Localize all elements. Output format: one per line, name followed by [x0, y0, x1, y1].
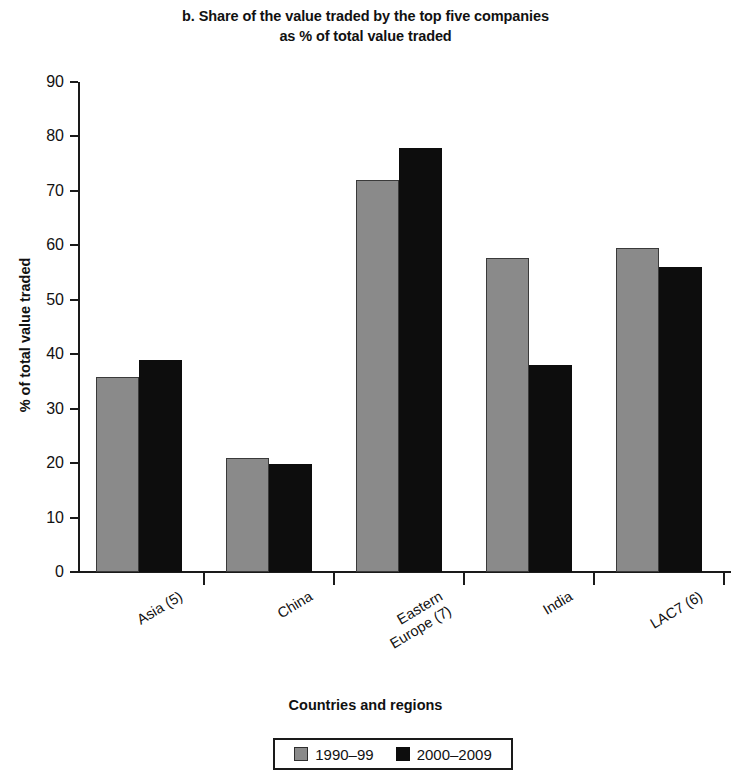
chart-title-line-1: b. Share of the value traded by the top … — [182, 8, 549, 24]
x-axis-category-label: LAC7 (6) — [560, 588, 706, 685]
bar-series-1 — [616, 248, 659, 572]
bar-series-2 — [399, 148, 442, 572]
y-axis-tick — [70, 517, 78, 519]
legend-label-series-1: 1990–99 — [315, 747, 373, 762]
x-axis-tick — [333, 572, 335, 585]
y-axis-tick-label: 30 — [4, 401, 64, 417]
x-axis-tick — [593, 572, 595, 585]
bar-series-2 — [659, 267, 702, 572]
x-axis-title: Countries and regions — [0, 697, 731, 713]
bar-series-1 — [486, 258, 529, 572]
bar-series-2 — [269, 464, 312, 572]
y-axis-tick-label: 80 — [4, 128, 64, 144]
y-axis-tick-label: 90 — [4, 74, 64, 90]
chart-title-line-2: as % of total value traded — [0, 26, 731, 46]
y-axis-tick — [70, 81, 78, 83]
bar-series-2 — [529, 365, 572, 572]
legend-item-series-2: 2000–2009 — [396, 747, 492, 762]
y-axis-tick-label: 40 — [4, 346, 64, 362]
x-axis-tick — [463, 572, 465, 585]
x-axis-tick — [203, 572, 205, 585]
y-axis-tick — [70, 462, 78, 464]
x-axis-tick — [723, 572, 725, 585]
x-axis-category-label: Eastern Europe (7) — [300, 588, 455, 700]
bar-series-1 — [96, 377, 139, 572]
y-axis-tick — [70, 299, 78, 301]
legend-label-series-2: 2000–2009 — [417, 747, 492, 762]
y-axis-tick — [70, 244, 78, 246]
bar-series-1 — [356, 180, 399, 572]
x-axis-category-label: India — [430, 588, 576, 685]
y-axis-tick — [70, 135, 78, 137]
y-axis-tick-label: 0 — [4, 564, 64, 580]
y-axis-tick-label: 10 — [4, 510, 64, 526]
y-axis-tick — [70, 408, 78, 410]
x-axis-category-label: China — [170, 588, 316, 685]
y-axis-tick — [70, 571, 78, 573]
series-1-swatch-icon — [294, 747, 308, 761]
bar-series-2 — [139, 360, 182, 572]
chart-legend: 1990–99 2000–2009 — [273, 738, 513, 770]
y-axis-tick-label: 20 — [4, 455, 64, 471]
chart-title: b. Share of the value traded by the top … — [0, 6, 731, 46]
y-axis-tick — [70, 190, 78, 192]
series-2-swatch-icon — [396, 747, 410, 761]
y-axis-tick-label: 70 — [4, 183, 64, 199]
y-axis-tick-label: 60 — [4, 237, 64, 253]
y-axis-tick — [70, 353, 78, 355]
bar-series-1 — [226, 458, 269, 572]
plot-area — [78, 82, 728, 572]
legend-item-series-1: 1990–99 — [294, 747, 373, 762]
y-axis-tick-label: 50 — [4, 292, 64, 308]
